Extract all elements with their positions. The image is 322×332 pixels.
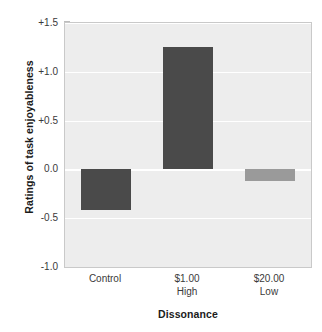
x-axis-title: Dissonance	[64, 308, 312, 320]
y-tick-label: -0.5	[6, 212, 58, 223]
x-tick-label: $1.00	[145, 272, 229, 285]
x-tick-sublabel: Low	[227, 285, 311, 298]
x-tick-label: Control	[63, 272, 147, 285]
y-tick-label: -1.0	[6, 261, 58, 272]
gridline	[65, 23, 311, 24]
y-axis-tick-labels: +1.5+1.0+0.50.0-0.5-1.0	[6, 22, 58, 268]
x-axis-tick-labels: Control$1.00High$20.00Low	[64, 272, 312, 306]
y-tick-label: +0.5	[6, 114, 58, 125]
x-tick-label: $20.00	[227, 272, 311, 285]
gridline	[65, 218, 311, 219]
bar-1	[163, 47, 213, 169]
y-tick-label: +1.0	[6, 65, 58, 76]
x-tick-sublabel: High	[145, 285, 229, 298]
plot-area	[64, 22, 312, 268]
y-tick-label: +1.5	[6, 17, 58, 28]
x-tick-group: $20.00Low	[227, 272, 311, 298]
y-tick-label: 0.0	[6, 163, 58, 174]
x-tick-group: $1.00High	[145, 272, 229, 298]
bar-chart-figure: Ratings of task enjoyableness +1.5+1.0+0…	[0, 0, 322, 332]
x-tick-group: Control	[63, 272, 147, 285]
bar-0	[81, 169, 131, 210]
bar-2	[245, 169, 295, 181]
gridline	[65, 267, 311, 268]
